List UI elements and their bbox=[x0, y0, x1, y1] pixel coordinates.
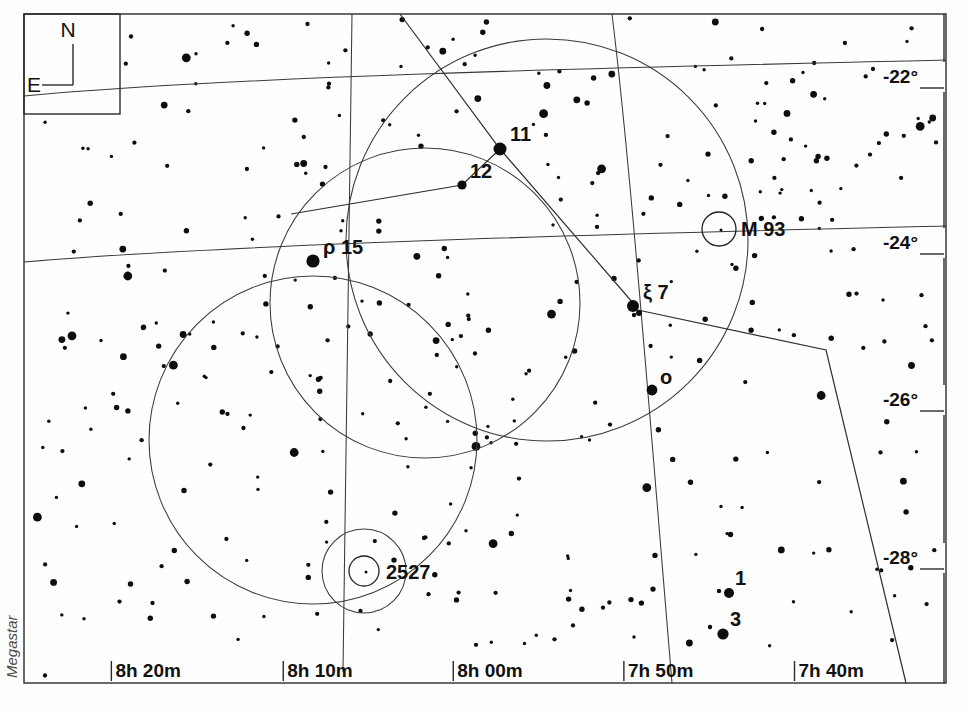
field-star bbox=[120, 353, 127, 360]
dec-gridline-1 bbox=[24, 60, 946, 96]
field-star bbox=[128, 581, 133, 586]
field-star bbox=[43, 673, 47, 677]
field-star bbox=[426, 592, 430, 596]
field-star bbox=[881, 298, 884, 301]
named-star-15[interactable] bbox=[306, 254, 319, 267]
field-star bbox=[320, 181, 325, 186]
dso-marker-m-93[interactable] bbox=[702, 212, 736, 246]
field-star bbox=[817, 480, 821, 484]
named-star-1[interactable] bbox=[724, 588, 734, 598]
named-star-7[interactable] bbox=[627, 300, 639, 312]
field-star bbox=[256, 488, 259, 491]
field-star bbox=[789, 137, 793, 141]
dso-marker-2527[interactable] bbox=[349, 556, 379, 586]
field-star bbox=[632, 635, 635, 638]
field-star bbox=[139, 438, 143, 442]
ra-tick-label-2: 8h 00m bbox=[457, 660, 522, 681]
field-star bbox=[902, 134, 906, 138]
field-star bbox=[772, 176, 776, 180]
field-star bbox=[211, 345, 216, 350]
field-star bbox=[148, 616, 153, 621]
field-star bbox=[220, 409, 225, 414]
field-star bbox=[388, 379, 392, 383]
field-star bbox=[595, 225, 599, 229]
field-star bbox=[557, 176, 560, 179]
named-star-3[interactable] bbox=[717, 628, 728, 639]
constellation-line-layer bbox=[291, 14, 906, 683]
field-star bbox=[262, 146, 265, 149]
field-star bbox=[485, 435, 489, 439]
field-star bbox=[778, 191, 781, 194]
field-star bbox=[327, 61, 330, 64]
field-star bbox=[306, 575, 311, 580]
field-star bbox=[81, 147, 84, 150]
field-star bbox=[75, 525, 78, 528]
field-star bbox=[924, 602, 928, 606]
field-star bbox=[584, 100, 589, 105]
field-star bbox=[725, 532, 728, 535]
field-star bbox=[792, 600, 795, 603]
named-star-11[interactable] bbox=[494, 143, 507, 156]
star-label-15: ρ 15 bbox=[323, 236, 363, 258]
dec-tick-label-3: -28° bbox=[883, 547, 918, 568]
field-star bbox=[740, 506, 743, 509]
field-star bbox=[893, 594, 896, 597]
field-star bbox=[628, 597, 633, 602]
field-star bbox=[442, 246, 447, 251]
field-star bbox=[244, 31, 249, 36]
field-star bbox=[934, 140, 938, 144]
sky-map-canvas[interactable]: M 932527 1112ρ 15ξ 7o13 -22°-24°-26°-28°… bbox=[0, 0, 970, 716]
field-star bbox=[184, 228, 189, 233]
compass-rose: N E bbox=[24, 14, 120, 114]
field-star bbox=[309, 374, 312, 377]
field-star bbox=[424, 406, 427, 409]
field-star bbox=[903, 509, 908, 514]
field-star-layer bbox=[33, 16, 938, 677]
field-star bbox=[236, 638, 239, 641]
field-star bbox=[804, 144, 807, 147]
field-star bbox=[474, 643, 478, 647]
field-star bbox=[532, 123, 535, 126]
field-star bbox=[432, 572, 437, 577]
field-star bbox=[82, 617, 85, 620]
coordinate-grid-layer bbox=[24, 14, 946, 683]
field-star bbox=[172, 548, 177, 553]
companion-star-dot bbox=[636, 310, 642, 316]
field-star bbox=[474, 95, 481, 102]
field-star bbox=[649, 195, 654, 200]
field-star bbox=[245, 559, 248, 562]
field-star bbox=[256, 475, 259, 478]
field-star bbox=[826, 547, 831, 552]
field-star bbox=[539, 109, 548, 118]
field-star bbox=[656, 427, 661, 432]
field-star bbox=[695, 250, 698, 253]
field-star bbox=[341, 219, 344, 222]
field-star bbox=[249, 413, 252, 416]
field-star bbox=[423, 535, 427, 539]
field-star bbox=[523, 642, 526, 645]
named-star-o[interactable] bbox=[647, 385, 658, 396]
field-star bbox=[451, 38, 454, 41]
field-star bbox=[55, 496, 58, 499]
field-star bbox=[733, 266, 738, 271]
field-star bbox=[878, 450, 882, 454]
field-star bbox=[463, 62, 467, 66]
ra-gridline-2 bbox=[612, 14, 672, 683]
field-star bbox=[319, 376, 323, 380]
field-star bbox=[404, 437, 407, 440]
field-star bbox=[392, 510, 397, 515]
field-of-view-circle-2 bbox=[270, 148, 580, 458]
field-star bbox=[846, 292, 851, 297]
field-star bbox=[417, 134, 420, 137]
field-star bbox=[688, 480, 693, 485]
field-star bbox=[839, 187, 842, 190]
field-star bbox=[884, 419, 889, 424]
named-star-12[interactable] bbox=[457, 180, 466, 189]
field-star bbox=[890, 638, 894, 642]
field-star bbox=[60, 613, 63, 616]
field-star bbox=[756, 102, 759, 105]
field-star bbox=[652, 553, 657, 558]
field-star bbox=[792, 333, 796, 337]
field-star bbox=[377, 628, 380, 631]
field-star bbox=[752, 253, 757, 258]
